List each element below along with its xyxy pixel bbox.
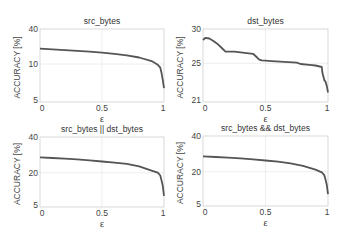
x-axis-label: ε [100, 219, 104, 229]
y-tick-label: 40 [192, 131, 202, 141]
y-tick-label: 5 [33, 95, 38, 105]
y-axis-label: ACCURACY [%] [175, 36, 185, 98]
y-tick-label: 10 [29, 59, 39, 69]
y-axis-label: ACCURACY [%] [12, 143, 22, 205]
y-tick-label: 40 [29, 132, 39, 142]
subplot-title: src_bytes [84, 16, 120, 26]
y-tick-label: 40 [29, 24, 39, 34]
x-tick-label: 0.5 [96, 103, 108, 113]
x-tick-label: 0.5 [96, 208, 108, 218]
subplot-title: src_bytes && dst_bytes [221, 123, 310, 133]
subplot-title: dst_bytes [247, 16, 283, 26]
x-tick-label: 0 [40, 208, 45, 218]
x-tick-label: 0 [40, 103, 45, 113]
x-tick-label: 0.5 [260, 207, 272, 217]
subplot-dst-bytes: dst_bytes00.51212530εACCURACY [%] [175, 16, 330, 124]
x-axis-label: ε [100, 114, 104, 124]
subplot-src-and-dst-bytes: src_bytes && dst_bytes00.5152040εACCURAC… [175, 123, 330, 228]
subplot-src-bytes: src_bytes00.5151040εACCURACY [%] [12, 16, 166, 124]
x-tick-label: 0 [203, 207, 208, 217]
x-tick-label: 0.5 [260, 103, 272, 113]
x-tick-label: 1 [161, 208, 166, 218]
x-tick-label: 0 [203, 103, 208, 113]
subplot-title: src_bytes || dst_bytes [61, 124, 143, 134]
y-tick-label: 30 [192, 24, 202, 34]
x-tick-label: 1 [325, 103, 330, 113]
y-tick-label: 5 [33, 200, 38, 210]
y-tick-label: 5 [196, 199, 201, 209]
subplot-src-or-dst-bytes: src_bytes || dst_bytes00.5152040εACCURAC… [12, 124, 166, 229]
x-tick-label: 1 [161, 103, 166, 113]
x-tick-label: 1 [325, 207, 330, 217]
y-axis-label: ACCURACY [%] [175, 142, 185, 204]
x-axis-label: ε [263, 218, 267, 228]
y-tick-label: 21 [192, 95, 202, 105]
y-tick-label: 20 [192, 167, 202, 177]
figure: src_bytes00.5151040εACCURACY [%] dst_byt… [0, 0, 346, 238]
y-tick-label: 25 [192, 58, 202, 68]
y-axis-label: ACCURACY [%] [12, 36, 22, 98]
y-tick-label: 20 [29, 168, 39, 178]
